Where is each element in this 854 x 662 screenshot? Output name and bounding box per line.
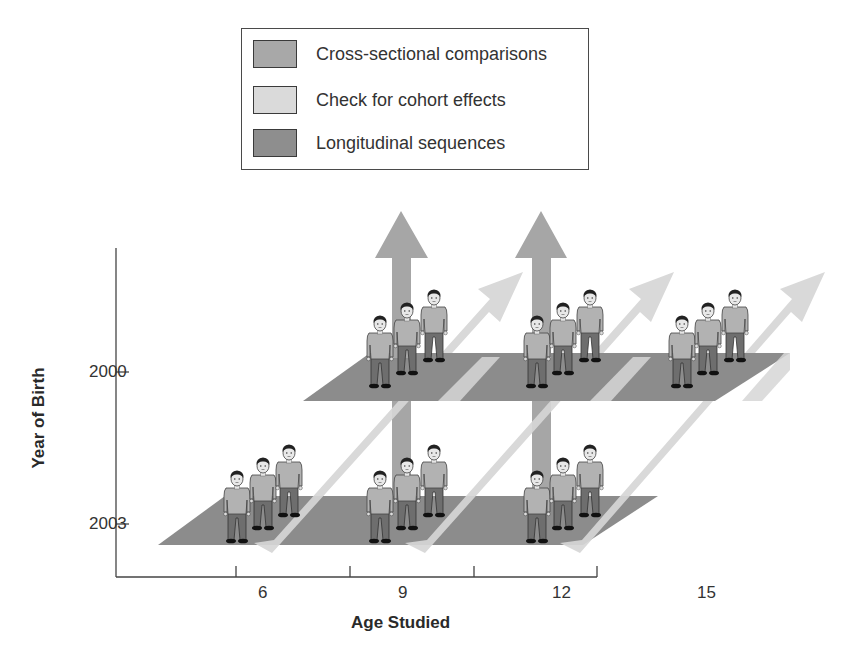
diagram-canvas bbox=[0, 0, 854, 662]
x-tick-6: 6 bbox=[258, 583, 267, 603]
y-axis-title: Year of Birth bbox=[29, 363, 49, 473]
x-tick-12: 12 bbox=[552, 583, 571, 603]
x-tick-9: 9 bbox=[398, 583, 407, 603]
x-axis-title: Age Studied bbox=[351, 613, 450, 633]
y-tick-2003: 2003 bbox=[89, 514, 127, 534]
y-tick-2000: 2000 bbox=[89, 362, 127, 382]
x-tick-15: 15 bbox=[697, 583, 716, 603]
